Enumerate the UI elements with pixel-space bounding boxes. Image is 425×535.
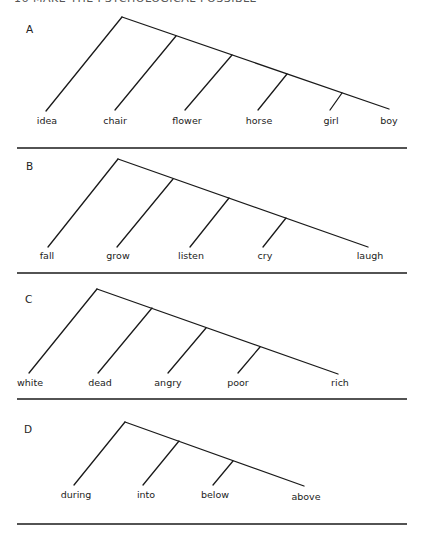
- sub-branch: [238, 347, 260, 373]
- sub-branch: [185, 55, 232, 110]
- sub-branch: [330, 93, 342, 110]
- diagram-c: Cwhitedeadangrypoorrich: [17, 289, 407, 399]
- leaf-word: below: [201, 489, 229, 500]
- leaf-word: cry: [258, 250, 273, 261]
- sub-branch: [213, 461, 233, 485]
- leaf-word: laugh: [357, 250, 384, 261]
- sub-branch: [263, 218, 286, 247]
- leaf-word: above: [291, 491, 320, 502]
- main-branch: [118, 159, 368, 247]
- leaf-word: angry: [154, 377, 182, 388]
- diagram-d: Dduringintobelowabove: [17, 422, 407, 524]
- leaf-word: dead: [88, 377, 112, 388]
- diagram-label: C: [25, 293, 32, 305]
- main-branch: [125, 422, 304, 486]
- first-branch: [74, 422, 125, 485]
- leaf-word: boy: [380, 115, 398, 126]
- leaf-word: rich: [331, 377, 349, 388]
- diagram-label: A: [26, 23, 34, 35]
- main-branch: [122, 17, 389, 109]
- tree-diagrams: AideachairflowerhorsegirlboyBfallgrowlis…: [0, 0, 425, 535]
- diagram-b: Bfallgrowlistencrylaugh: [17, 159, 407, 273]
- sub-branch: [98, 308, 152, 373]
- sub-branch: [168, 328, 206, 373]
- leaf-word: idea: [37, 115, 57, 126]
- first-branch: [29, 289, 97, 373]
- diagram-a: Aideachairflowerhorsegirlboy: [17, 17, 407, 148]
- leaf-word: poor: [227, 377, 249, 388]
- leaf-word: grow: [106, 250, 130, 261]
- first-branch: [46, 17, 122, 111]
- leaf-word: girl: [323, 115, 338, 126]
- sub-branch: [190, 198, 229, 247]
- sub-branch: [258, 74, 287, 110]
- page: 16 MAKE THE PSYCHOLOGICAL POSSIBLE Aidea…: [0, 0, 425, 535]
- sub-branch: [117, 179, 173, 247]
- leaf-word: listen: [178, 250, 204, 261]
- leaf-word: horse: [246, 115, 273, 126]
- leaf-word: into: [137, 489, 155, 500]
- sub-branch: [115, 36, 176, 110]
- leaf-word: flower: [172, 115, 201, 126]
- leaf-word: during: [61, 489, 92, 500]
- diagram-label: D: [24, 423, 32, 435]
- leaf-word: chair: [103, 115, 127, 126]
- diagram-label: B: [26, 160, 33, 172]
- sub-branch: [143, 441, 179, 485]
- leaf-word: white: [17, 377, 43, 388]
- leaf-word: fall: [40, 250, 54, 261]
- first-branch: [48, 159, 118, 247]
